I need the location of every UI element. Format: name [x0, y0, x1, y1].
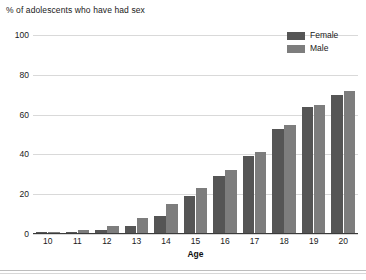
bar-group	[63, 35, 93, 234]
y-tick-label-40: 40	[0, 150, 29, 159]
y-tick-label-80: 80	[0, 71, 29, 80]
legend-item-male: Male	[287, 42, 338, 55]
chart-title: % of adolescents who have had sex	[6, 5, 145, 15]
bar-female-age-18	[272, 129, 284, 234]
footer-divider-secondary	[0, 273, 366, 274]
bar-group	[181, 35, 211, 234]
bar-group	[328, 35, 358, 234]
bar-male-age-14	[166, 204, 178, 234]
bar-male-age-19	[314, 105, 326, 234]
legend-item-female: Female	[287, 29, 338, 42]
bar-male-age-13	[137, 218, 149, 234]
bar-group	[210, 35, 240, 234]
x-tick-label-19: 19	[309, 236, 318, 246]
x-tick-label-12: 12	[102, 236, 111, 246]
x-tick-label-14: 14	[161, 236, 170, 246]
x-axis: 1011121314151617181920	[33, 236, 358, 250]
bar-male-age-17	[255, 152, 267, 234]
bar-male-age-18	[284, 125, 296, 234]
bars-layer	[33, 35, 358, 234]
bar-group	[92, 35, 122, 234]
bar-female-age-17	[243, 156, 255, 234]
x-axis-line	[33, 233, 358, 234]
bar-group	[151, 35, 181, 234]
legend-label-male: Male	[310, 44, 328, 53]
y-tick-label-60: 60	[0, 110, 29, 119]
bar-male-age-16	[225, 170, 237, 234]
x-tick-label-18: 18	[279, 236, 288, 246]
bar-female-age-15	[184, 196, 196, 234]
y-tick-label-0: 0	[0, 230, 29, 239]
bar-group	[240, 35, 270, 234]
bar-group	[122, 35, 152, 234]
x-tick-label-20: 20	[338, 236, 347, 246]
bar-female-age-20	[331, 95, 343, 234]
chart-figure: % of adolescents who have had sex 020406…	[0, 0, 366, 280]
y-axis: 020406080100	[0, 35, 29, 234]
chart-legend: Female Male	[287, 29, 338, 55]
y-tick-label-20: 20	[0, 190, 29, 199]
y-tick-label-100: 100	[0, 31, 29, 40]
x-tick-label-11: 11	[73, 236, 82, 246]
x-tick-label-16: 16	[220, 236, 229, 246]
x-tick-label-15: 15	[191, 236, 200, 246]
x-axis-title: Age	[33, 249, 358, 259]
bar-group	[33, 35, 63, 234]
legend-swatch-female-icon	[287, 32, 305, 40]
bar-female-age-16	[213, 176, 225, 234]
bar-female-age-14	[154, 216, 166, 234]
bar-group	[299, 35, 329, 234]
bar-male-age-15	[196, 188, 208, 234]
x-tick-label-10: 10	[43, 236, 52, 246]
x-tick-label-13: 13	[132, 236, 141, 246]
bar-female-age-19	[302, 107, 314, 234]
legend-label-female: Female	[310, 31, 338, 40]
footer-divider	[0, 270, 366, 271]
legend-swatch-male-icon	[287, 45, 305, 53]
bar-male-age-20	[344, 91, 356, 234]
bar-group	[269, 35, 299, 234]
x-tick-label-17: 17	[250, 236, 259, 246]
